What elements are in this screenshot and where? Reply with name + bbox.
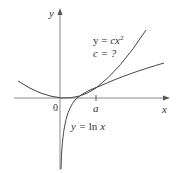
x-axis-arrow-icon bbox=[163, 96, 170, 101]
parabola-equation-label: y = cx2 bbox=[93, 34, 124, 46]
ln-curve bbox=[61, 63, 164, 169]
parabola-question-label: c = ? bbox=[93, 47, 117, 59]
x-axis-label: x bbox=[161, 103, 167, 115]
tick-a-label: a bbox=[93, 102, 99, 114]
origin-label: 0 bbox=[53, 102, 58, 113]
diagram-canvas: y x 0 a y = cx2 c = ? y = ln x bbox=[0, 0, 183, 173]
parabola-curve bbox=[18, 30, 146, 98]
y-axis-label: y bbox=[48, 7, 54, 19]
ln-equation-label: y = ln x bbox=[70, 120, 105, 132]
y-axis-arrow-icon bbox=[58, 8, 63, 15]
